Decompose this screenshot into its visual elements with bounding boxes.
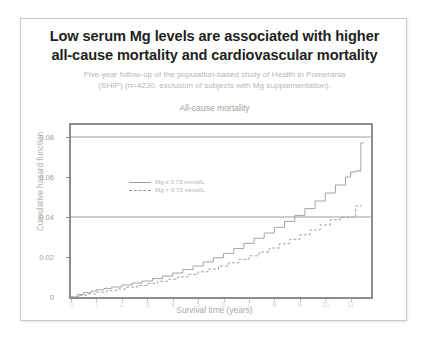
x-tick-label: 5: [189, 301, 207, 308]
page-subtitle-line-2: (SHIP) (n=4230, exclusion of subjects wi…: [39, 80, 390, 91]
x-tick-label: 9: [291, 301, 309, 308]
page-title: Low serum Mg levels are associated with …: [29, 27, 400, 65]
legend-swatch-dashed-icon: [129, 190, 151, 191]
x-tick-label: 3: [138, 301, 156, 308]
series-line-2: [71, 205, 361, 297]
chart-title: All-cause mortality: [21, 103, 408, 113]
x-tick-label: 0: [62, 301, 80, 308]
x-tick-label: 4: [164, 301, 182, 308]
chart-legend: Mg ≤ 0.73 mmol/LMg > 0.73 mmol/L: [129, 178, 205, 194]
y-tick-label: 0.04: [14, 213, 54, 222]
plot-area: Mg ≤ 0.73 mmol/LMg > 0.73 mmol/L: [69, 123, 373, 299]
plot-svg: [71, 125, 371, 297]
y-tick-label: 0.02: [14, 253, 54, 262]
x-tick-label: 1: [87, 301, 105, 308]
legend-item: Mg ≤ 0.73 mmol/L: [129, 178, 205, 186]
legend-label: Mg > 0.73 mmol/L: [155, 186, 205, 194]
x-tick-label: 10: [316, 301, 334, 308]
legend-item: Mg > 0.73 mmol/L: [129, 186, 205, 194]
series-line-1: [71, 142, 363, 297]
x-tick-label: 6: [215, 301, 233, 308]
x-tick-label: 2: [113, 301, 131, 308]
legend-label: Mg ≤ 0.73 mmol/L: [155, 178, 204, 186]
legend-swatch-solid-icon: [129, 182, 151, 183]
y-tick-label: 0: [14, 293, 54, 302]
page-subtitle-line-1: Five-year follow-up of the population-ba…: [39, 69, 390, 80]
y-tick-label: 0.08: [14, 133, 54, 142]
page-title-line-2: all-cause mortality and cardiovascular m…: [29, 46, 400, 65]
page-title-line-1: Low serum Mg levels are associated with …: [29, 27, 400, 46]
chart: All-cause mortality Cumulative hazard fu…: [21, 103, 408, 322]
x-tick-label: 7: [240, 301, 258, 308]
x-tick-label: 11: [342, 301, 360, 308]
y-tick-label: 0.06: [14, 173, 54, 182]
page-subtitle: Five-year follow-up of the population-ba…: [39, 69, 390, 91]
x-tick-label: 8: [265, 301, 283, 308]
slide-card: Low serum Mg levels are associated with …: [20, 18, 407, 321]
